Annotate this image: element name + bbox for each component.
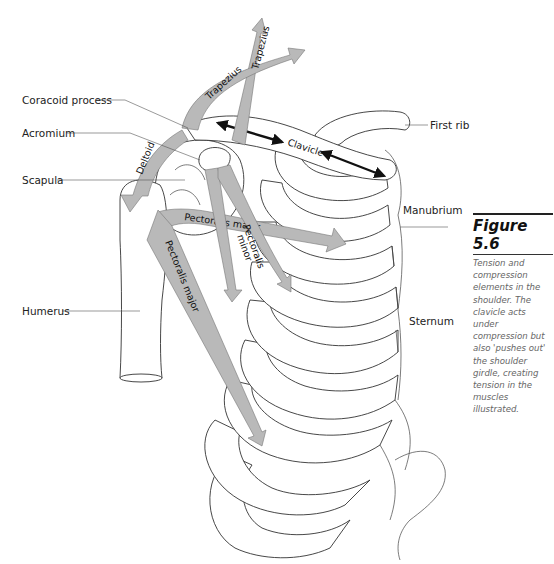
caption-line: muscles: [473, 391, 553, 403]
acromium-label: Acromium: [22, 127, 75, 139]
caption-line: under: [473, 318, 553, 330]
caption-line: compression: [473, 269, 553, 281]
figure-number: Figure 5.6: [473, 215, 553, 254]
caption-text: Tension and compression elements in the …: [473, 257, 553, 416]
figure-caption: Figure 5.6 Tension and compression eleme…: [473, 213, 553, 416]
humerus-label: Humerus: [22, 305, 70, 317]
caption-line: clavicle acts: [473, 306, 553, 318]
caption-line: also 'pushes out': [473, 342, 553, 354]
caption-divider: [473, 254, 553, 255]
caption-line: elements in the: [473, 281, 553, 293]
caption-line: girdle, creating: [473, 367, 553, 379]
coracoid-process-label: Coracoid process: [22, 94, 112, 106]
scapula-label: Scapula: [22, 174, 64, 186]
first-rib-label: First rib: [430, 119, 470, 131]
humerus: [120, 180, 167, 381]
caption-line: shoulder. The: [473, 294, 553, 306]
shoulder-diagram: Clavicle Trapezius Trapezius Deltoid Pec…: [0, 0, 554, 564]
manubrium-label: Manubrium: [403, 204, 463, 216]
sternum-label: Sternum: [409, 315, 454, 327]
caption-line: compression but: [473, 330, 553, 342]
caption-line: Tension and: [473, 257, 553, 269]
caption-line: tension in the: [473, 379, 553, 391]
caption-line: illustrated.: [473, 403, 553, 415]
caption-line: the shoulder: [473, 355, 553, 367]
